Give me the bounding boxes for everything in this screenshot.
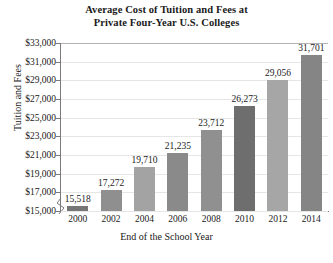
- x-tick-label: 2004: [128, 214, 161, 224]
- bar-chart: Average Cost of Tuition and Fees at Priv…: [0, 0, 333, 263]
- bar-value-label: 29,056: [265, 68, 291, 78]
- x-tick-label: 2014: [295, 214, 328, 224]
- bar: 29,056: [267, 80, 288, 211]
- y-tick-label: $19,000: [0, 170, 56, 180]
- y-tick-label: $25,000: [0, 114, 56, 124]
- bar-value-label: 19,710: [131, 155, 157, 165]
- x-tick-label: 2002: [94, 214, 127, 224]
- x-axis-title: End of the School Year: [0, 231, 333, 242]
- chart-title: Average Cost of Tuition and Fees at Priv…: [0, 4, 333, 29]
- bar-value-label: 23,712: [198, 118, 224, 128]
- x-tick-label: 2006: [161, 214, 194, 224]
- bar: 17,272: [101, 190, 122, 211]
- bar-value-label: 17,272: [98, 178, 124, 188]
- y-tick-label: $21,000: [0, 151, 56, 161]
- y-tick-label: $23,000: [0, 132, 56, 142]
- y-tick-label: $29,000: [0, 76, 56, 86]
- bar-rect: [167, 153, 188, 211]
- bar: 21,235: [167, 153, 188, 211]
- bar-rect: [201, 130, 222, 211]
- bar: 15,518: [67, 206, 88, 211]
- bar-rect: [67, 206, 88, 211]
- bar: 19,710: [134, 167, 155, 211]
- x-tick-label: 2012: [261, 214, 294, 224]
- bar-rect: [101, 190, 122, 211]
- x-tick-label: 2000: [61, 214, 94, 224]
- bar-rect: [134, 167, 155, 211]
- bar-value-label: 26,273: [232, 94, 258, 104]
- chart-title-line-2: Private Four-Year U.S. Colleges: [0, 17, 333, 30]
- bar: 23,712: [201, 130, 222, 211]
- bar-rect: [301, 55, 322, 211]
- bar: 26,273: [234, 106, 255, 211]
- y-tick-label: $17,000: [0, 188, 56, 198]
- chart-title-line-1: Average Cost of Tuition and Fees at: [0, 4, 333, 17]
- x-tick-label: 2010: [228, 214, 261, 224]
- bar-rect: [234, 106, 255, 211]
- gridline: [61, 62, 328, 63]
- plot-area: 15,51817,27219,71021,23523,71226,27329,0…: [61, 43, 328, 211]
- gridline: [61, 43, 328, 44]
- bar-rect: [267, 80, 288, 211]
- bar-value-label: 15,518: [65, 194, 91, 204]
- bar: 31,701: [301, 55, 322, 211]
- bar-value-label: 31,701: [298, 43, 324, 53]
- y-tick-label: $33,000: [0, 39, 56, 49]
- bar-value-label: 21,235: [165, 141, 191, 151]
- y-tick-label: $15,000: [0, 207, 56, 217]
- y-tick-label: $27,000: [0, 95, 56, 105]
- gridline: [61, 211, 328, 212]
- x-tick-label: 2008: [195, 214, 228, 224]
- y-tick-label: $31,000: [0, 58, 56, 68]
